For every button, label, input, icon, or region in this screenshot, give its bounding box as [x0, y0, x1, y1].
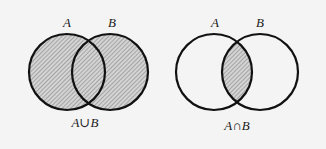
set-a-label: A	[62, 15, 71, 30]
intersection-symbol: ∩	[232, 118, 241, 133]
set-a-label: A	[210, 15, 219, 30]
union-symbol: ∪	[80, 115, 91, 130]
set-b-label: B	[256, 15, 264, 30]
intersection-diagram: A B A∩B	[176, 15, 298, 133]
caption-a: A	[223, 118, 232, 133]
union-caption: A∪B	[71, 115, 99, 130]
set-b-label: B	[108, 15, 116, 30]
caption-a: A	[71, 115, 80, 130]
intersection-caption: A∩B	[223, 118, 249, 133]
caption-b: B	[90, 115, 98, 130]
union-diagram: A B A∪B	[29, 15, 148, 130]
venn-diagram-figure: A B A∪B A B A∩B	[0, 0, 326, 149]
caption-b: B	[242, 118, 250, 133]
